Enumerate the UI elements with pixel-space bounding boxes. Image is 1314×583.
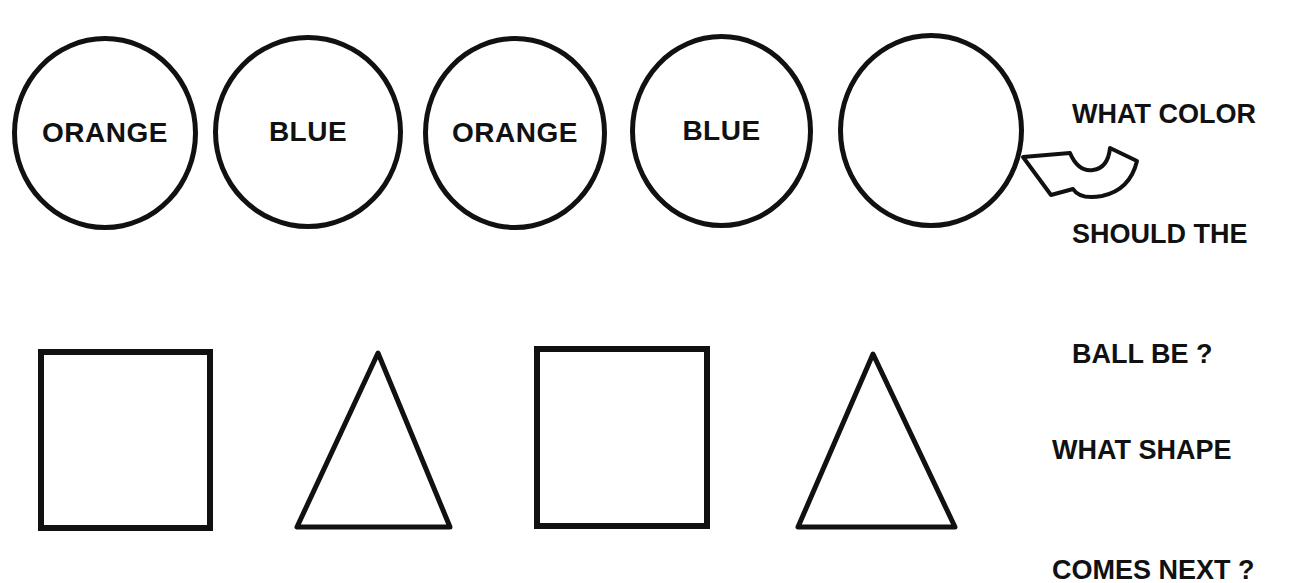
color-question-line-2: SHOULD THE bbox=[1072, 214, 1256, 254]
shape-question-line-1: WHAT SHAPE bbox=[1052, 430, 1255, 470]
square-1 bbox=[38, 349, 213, 531]
shape-question-line-2: COMES NEXT ? bbox=[1052, 550, 1255, 583]
triangle-1 bbox=[297, 353, 450, 527]
color-question-line-1: WHAT COLOR bbox=[1072, 94, 1256, 134]
triangle-2 bbox=[798, 354, 955, 527]
shape-question: WHAT SHAPE COMES NEXT ? bbox=[1052, 350, 1255, 583]
square-2 bbox=[534, 346, 710, 529]
